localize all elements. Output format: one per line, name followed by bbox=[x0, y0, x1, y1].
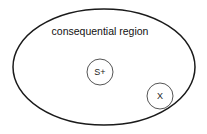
region-label: consequential region bbox=[52, 25, 149, 37]
node-s-plus-label: S+ bbox=[94, 67, 105, 77]
node-x-label: X bbox=[157, 91, 163, 101]
diagram-canvas: consequential region S+ X bbox=[0, 0, 207, 134]
consequential-region-diagram: consequential region S+ X bbox=[0, 0, 207, 134]
